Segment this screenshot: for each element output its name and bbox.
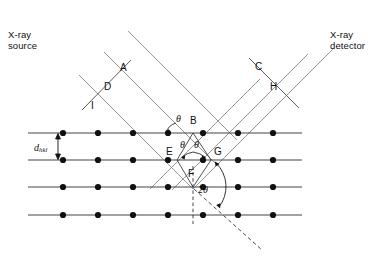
dspacing-subscript: hkl [39,146,47,153]
lattice-atom [60,184,66,190]
theta-left-label: θ [180,139,185,150]
lattice-atom [130,212,136,218]
incident-beams [79,31,237,189]
theta-incident-arc [166,123,176,133]
lattice-atom [130,130,136,136]
lattice-atom [60,212,66,218]
dspacing-arrowhead-down [56,154,61,160]
lattice-atom [60,157,66,163]
lattice-atom [235,130,241,136]
incident-ray-extension [194,189,262,250]
lattice-atom [95,184,101,190]
theta-right-label: θ [194,139,199,150]
two-theta-arc [215,162,226,209]
wavefront-markers [82,58,299,110]
xray-detector-label: X-ray detector [330,30,365,52]
incident-extension-dashed [194,189,262,250]
lattice-atom [270,184,276,190]
lattice-atom [235,184,241,190]
lattice-atom [165,157,171,163]
point-label-E: E [166,146,173,157]
lattice-atom [95,212,101,218]
lattice-atom [235,212,241,218]
diagram-canvas [0,0,387,256]
lattice-atom [270,212,276,218]
lattice-atom [130,157,136,163]
incident-beam-1 [128,31,237,140]
point-label-F: F [188,168,194,179]
point-label-H: H [270,81,277,92]
lattice-atom [200,130,206,136]
xray-source-label: X-ray source [8,30,37,52]
lattice-atom [130,184,136,190]
point-label-D: D [104,81,111,92]
lattice-atom [270,157,276,163]
lattice-atoms [60,130,276,218]
diffracted-beam-3 [193,48,334,189]
lattice-atom [200,212,206,218]
lattice-atom [165,212,171,218]
lattice-atom [165,184,171,190]
theta-incident-label: θ [176,113,181,124]
two-theta-label: 2θ [198,184,208,195]
two-theta-arrowhead-bottom [216,203,220,208]
point-label-C: C [255,61,262,72]
bragg-diffraction-figure: X-ray source X-ray detector A D I C H B … [0,0,387,256]
dspacing-label: dhkl [34,142,47,153]
lattice-atom [235,157,241,163]
dspacing-arrow [56,134,61,160]
lattice-atom [270,130,276,136]
point-label-G: G [214,146,222,157]
point-label-I: I [91,100,94,111]
point-label-A: A [120,62,127,73]
lattice-atom [95,130,101,136]
theta-interior-arcs [181,152,206,159]
dspacing-arrowhead-up [56,134,61,140]
lattice-atom [95,157,101,163]
point-label-B: B [190,115,197,126]
lattice-atom [60,130,66,136]
